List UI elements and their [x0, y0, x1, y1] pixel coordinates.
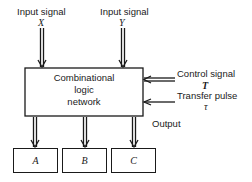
- input-x-arrow: [38, 28, 46, 67]
- control-signal-label: Control signal: [177, 69, 235, 79]
- input-y-arrow: [119, 28, 127, 67]
- output-label: Output: [152, 119, 181, 129]
- combinational-logic-label: Combinational logic network: [25, 72, 143, 108]
- output-arrow-c: [130, 117, 138, 147]
- block-label-line3: network: [25, 96, 143, 108]
- register-a-label: A: [32, 155, 38, 166]
- register-c: C: [111, 148, 156, 173]
- input-y-label: Input signal: [100, 7, 149, 17]
- control-signal-arrow: [144, 76, 175, 83]
- register-c-label: C: [130, 155, 137, 166]
- transfer-pulse-label: Transfer pulse: [177, 91, 237, 101]
- output-arrow-b: [81, 117, 89, 147]
- block-label-line1: Combinational: [25, 72, 143, 84]
- input-x-label: Input signal: [17, 7, 66, 17]
- input-x-variable: X: [38, 17, 44, 28]
- transfer-pulse-variable: τ: [204, 101, 208, 112]
- block-label-line2: logic: [25, 84, 143, 96]
- register-b-label: B: [81, 155, 87, 166]
- register-b: B: [62, 148, 107, 173]
- transfer-pulse-arrow: [144, 99, 175, 105]
- output-arrow-a: [31, 117, 39, 147]
- input-y-variable: Y: [119, 17, 125, 28]
- register-a: A: [13, 148, 58, 173]
